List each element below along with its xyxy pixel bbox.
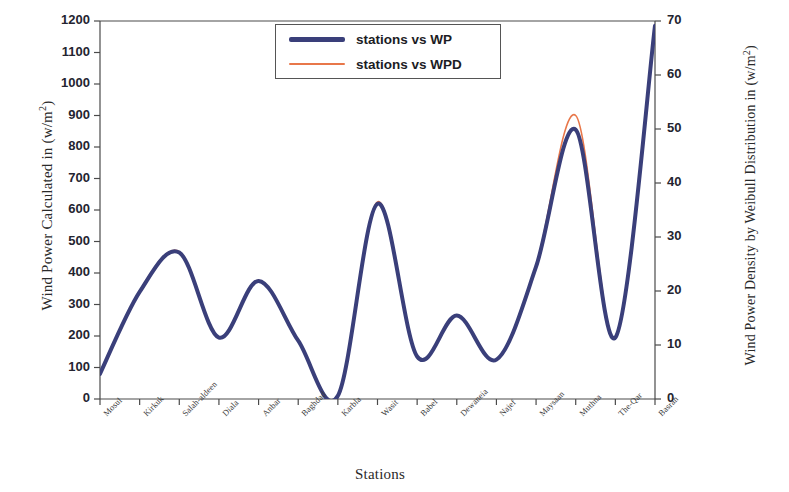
y-axis-right-tick-label: 30 (667, 228, 707, 243)
y-axis-left-tick-label: 1100 (22, 44, 90, 59)
y-axis-left-tick-label: 1200 (22, 12, 90, 27)
y-axis-left-tick-label: 600 (22, 201, 90, 216)
y-axis-left-tick-label: 800 (22, 138, 90, 153)
y-axis-left-tick-label: 0 (22, 390, 90, 405)
y-axis-left-tick-label: 700 (22, 170, 90, 185)
y-axis-left-tick-label: 200 (22, 327, 90, 342)
chart-figure: Wind Power Calculated in (w/m2) Wind Pow… (0, 0, 789, 492)
y-axis-left-tick-label: 400 (22, 264, 90, 279)
y-axis-right-tick-label: 40 (667, 174, 707, 189)
y-axis-right-title: Wind Power Density by Weibull Distributi… (741, 15, 760, 395)
legend-label-wp: stations vs WP (356, 32, 452, 47)
y-axis-left-tick-label: 500 (22, 233, 90, 248)
y-axis-left-tick-label: 100 (22, 359, 90, 374)
legend-swatch-wp (286, 37, 348, 42)
y-axis-left-tick-label: 300 (22, 296, 90, 311)
series-line-wp (100, 26, 655, 401)
legend-label-wpd: stations vs WPD (356, 57, 462, 72)
legend-swatch-wpd (286, 63, 348, 65)
y-axis-right-tick-label: 50 (667, 120, 707, 135)
legend-item-wp: stations vs WP (276, 27, 500, 51)
chart-legend: stations vs WP stations vs WPD (275, 24, 501, 79)
y-axis-left-tick-label: 900 (22, 107, 90, 122)
series-line-wpd (100, 25, 655, 401)
y-axis-left-tick-label: 1000 (22, 75, 90, 90)
y-axis-right-tick-label: 10 (667, 336, 707, 351)
legend-item-wpd: stations vs WPD (276, 52, 500, 76)
y-axis-right-tick-label: 20 (667, 282, 707, 297)
x-axis-title: Stations (0, 466, 760, 483)
y-axis-right-tick-label: 70 (667, 12, 707, 27)
y-axis-right-tick-label: 60 (667, 66, 707, 81)
